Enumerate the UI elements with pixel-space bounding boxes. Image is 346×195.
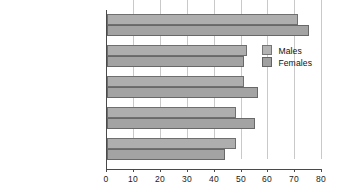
x-tick-label-20: 20: [148, 174, 172, 184]
x-tick-label-0: 0: [94, 174, 118, 184]
legend-label-males: Males: [278, 46, 301, 56]
x-tick-label-70: 70: [282, 174, 306, 184]
x-tick: [241, 169, 242, 172]
x-tick-label-80: 80: [309, 174, 333, 184]
x-tick: [294, 169, 295, 172]
x-tick-label-10: 10: [121, 174, 145, 184]
legend-label-females: Females: [278, 58, 312, 68]
category-labels: Local doctors or GPs In-patient care Out…: [0, 0, 346, 195]
legend-swatch-males-icon: [262, 45, 272, 55]
x-tick: [160, 169, 161, 172]
x-tick: [133, 169, 134, 172]
x-tick: [214, 169, 215, 172]
x-tick-label-50: 50: [229, 174, 253, 184]
x-tick: [106, 169, 107, 172]
x-tick: [267, 169, 268, 172]
x-tick-label-30: 30: [175, 174, 199, 184]
legend-item-males: Males: [262, 45, 312, 57]
bar-chart: Local doctors or GPs In-patient care Out…: [0, 0, 346, 195]
legend-swatch-females-icon: [262, 57, 272, 67]
x-tick: [187, 169, 188, 172]
x-tick: [321, 169, 322, 172]
x-tick-label-60: 60: [255, 174, 279, 184]
chart-legend: Males Females: [262, 45, 312, 69]
legend-item-females: Females: [262, 57, 312, 69]
x-tick-label-40: 40: [202, 174, 226, 184]
